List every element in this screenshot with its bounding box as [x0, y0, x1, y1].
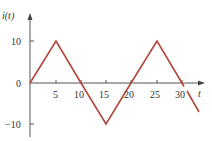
y-axis-arrow-icon: [28, 13, 33, 20]
y-tick-label: 0: [16, 78, 21, 89]
x-tick-label: 20: [124, 89, 134, 100]
x-tick-label: 25: [150, 89, 160, 100]
x-axis-label: t: [198, 88, 201, 99]
triangle-wave-chart: i(t) 10 0 −10 5 10 15 20 25 30 t: [0, 0, 212, 141]
y-axis-label: i(t): [2, 10, 15, 22]
y-tick-label: −10: [5, 119, 21, 130]
x-tick-label: 30: [175, 89, 185, 100]
x-tick-label: 15: [99, 89, 109, 100]
x-tick-label: 5: [53, 89, 58, 100]
x-axis-arrow-icon: [198, 81, 205, 86]
y-tick-label: 10: [11, 36, 21, 47]
x-tick-label: 10: [74, 89, 84, 100]
